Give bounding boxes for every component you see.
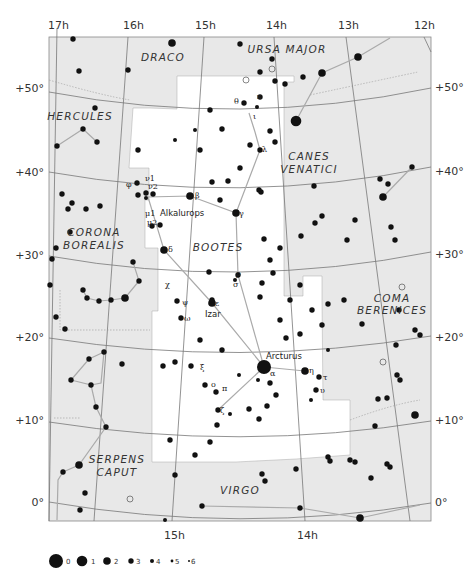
star — [412, 327, 417, 332]
star — [269, 56, 274, 61]
star — [108, 297, 113, 302]
dec-label: +10° — [15, 414, 44, 427]
star — [309, 398, 313, 402]
star — [262, 478, 267, 483]
dec-label: +50° — [435, 81, 464, 94]
star — [119, 361, 124, 366]
dec-label: +20° — [15, 331, 44, 344]
magnitude-legend: 0 1 2 3 4 5 6 — [49, 554, 196, 568]
star — [75, 461, 83, 469]
star — [293, 466, 298, 471]
star — [174, 298, 179, 303]
star — [206, 269, 211, 274]
star — [417, 332, 422, 337]
star — [144, 196, 148, 200]
star — [237, 373, 241, 377]
greek-label: ψ — [182, 298, 188, 307]
dec-label: +30° — [15, 249, 44, 262]
star — [160, 246, 168, 254]
star — [150, 191, 155, 196]
dec-labels-left: +50° +40° +30° +20° +10° 0° — [15, 82, 44, 509]
star — [326, 348, 330, 352]
star — [291, 116, 302, 127]
constellation-label-ursa-major: URSA MAJOR — [247, 43, 326, 55]
greek-label: η — [309, 366, 314, 375]
star — [94, 139, 99, 144]
star — [277, 317, 282, 322]
greek-label: ρ — [236, 269, 241, 278]
star — [267, 257, 272, 262]
star — [384, 395, 389, 400]
dec-label: +10° — [435, 414, 464, 427]
star — [264, 403, 269, 408]
greek-label: κ — [257, 92, 262, 101]
star — [53, 314, 58, 319]
star — [121, 294, 129, 302]
star — [160, 363, 165, 368]
star — [70, 36, 75, 41]
star — [237, 41, 242, 46]
ra-label: 16h — [123, 19, 144, 32]
dec-label: +30° — [435, 248, 464, 261]
star — [86, 356, 91, 361]
constellation-label-bootes: BOOTES — [193, 241, 244, 253]
star — [300, 74, 305, 79]
star — [49, 256, 54, 261]
legend-mag-5-label: 5 — [175, 558, 179, 566]
star — [97, 203, 102, 208]
star — [207, 107, 212, 112]
star — [77, 507, 82, 512]
star — [255, 105, 259, 109]
star — [313, 387, 318, 392]
star — [344, 237, 349, 242]
star — [272, 139, 277, 144]
star — [136, 278, 141, 283]
star — [267, 380, 272, 385]
legend-mag-1-symbol — [77, 556, 88, 567]
star-chart: 17h 16h 15h 14h 13h 12h 15h 14h +50° +40… — [0, 0, 474, 580]
star — [368, 475, 373, 480]
legend-mag-3-label: 3 — [136, 558, 140, 566]
star — [257, 360, 271, 374]
greek-label: μ2 — [147, 218, 157, 227]
star — [143, 190, 148, 195]
legend-mag-0-label: 0 — [66, 558, 70, 566]
star — [356, 514, 364, 522]
star — [287, 297, 292, 302]
star — [84, 295, 89, 300]
star — [228, 412, 232, 416]
star — [47, 282, 52, 287]
star — [209, 297, 214, 302]
star — [259, 280, 264, 285]
star — [409, 164, 414, 169]
star — [347, 457, 352, 462]
star — [60, 469, 65, 474]
star — [397, 377, 402, 382]
star — [277, 245, 282, 250]
dec-label: 0° — [435, 496, 448, 509]
legend-mag-2-symbol — [103, 557, 111, 565]
star — [372, 423, 377, 428]
greek-label: μ1 — [145, 209, 155, 218]
star — [256, 416, 261, 421]
star — [385, 181, 390, 186]
star — [135, 192, 140, 197]
star — [282, 81, 287, 86]
star — [214, 422, 219, 427]
star — [270, 270, 275, 275]
star — [359, 321, 364, 326]
star — [93, 404, 98, 409]
constellation-label-hercules: HERCULES — [47, 110, 113, 122]
star — [53, 245, 58, 250]
star — [257, 69, 262, 74]
star — [298, 233, 303, 238]
star — [186, 192, 194, 200]
star — [197, 147, 202, 152]
legend-mag-2-label: 2 — [114, 558, 118, 566]
greek-label: χ — [165, 280, 170, 289]
star — [130, 259, 135, 264]
ra-label: 14h — [266, 19, 287, 32]
star — [163, 518, 167, 522]
greek-label: π — [222, 384, 227, 393]
star — [173, 138, 177, 142]
